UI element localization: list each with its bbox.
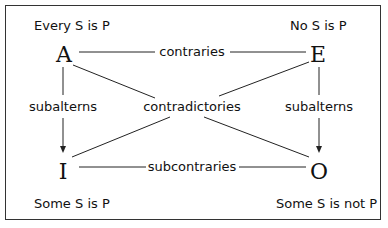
arrow-down-icon	[316, 146, 322, 153]
proposition-o: Some S is not P	[276, 196, 377, 211]
proposition-i: Some S is P	[34, 196, 110, 211]
letter-i: I	[59, 159, 68, 184]
contradictories-line-i	[72, 117, 170, 157]
contradictories-line-o	[204, 117, 309, 157]
label-contradictories: contradictories	[143, 99, 241, 114]
proposition-a: Every S is P	[34, 18, 110, 33]
letter-a: A	[55, 42, 73, 67]
proposition-e: No S is P	[290, 18, 347, 33]
label-subalterns-right: subalterns	[285, 99, 353, 114]
arrow-down-icon	[60, 146, 66, 153]
contradictories-line-e	[219, 62, 309, 96]
contradictories-line-a	[73, 65, 155, 98]
label-subalterns-left: subalterns	[29, 99, 97, 114]
letter-o: O	[310, 159, 328, 184]
label-contraries: contraries	[159, 44, 225, 59]
letter-e: E	[310, 42, 326, 67]
square-of-opposition: Every S is P No S is P Some S is P Some …	[0, 0, 388, 228]
label-subcontraries: subcontraries	[148, 159, 237, 174]
